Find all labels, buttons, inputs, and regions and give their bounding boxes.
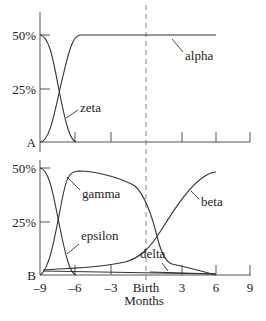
beta-pointer bbox=[191, 191, 199, 199]
gamma-pointer bbox=[67, 177, 80, 190]
x-tick-label: 9 bbox=[247, 280, 254, 295]
panel-a-y-label-25: 25% bbox=[12, 82, 36, 97]
x-axis-title: Months bbox=[124, 293, 164, 308]
zeta-label: zeta bbox=[80, 100, 101, 115]
development-chart: 50% 25% A alpha zeta 50% 25% B ga bbox=[0, 0, 266, 321]
alpha-label: alpha bbox=[185, 48, 213, 63]
alpha-pointer bbox=[172, 39, 183, 52]
panel-a: 50% 25% A alpha zeta bbox=[12, 12, 250, 152]
x-tick-label: –9 bbox=[33, 280, 47, 295]
delta-label: delta bbox=[140, 246, 165, 261]
panel-b: 50% 25% B gamma epsilon beta delta bbox=[12, 160, 251, 283]
x-tick-label: 3 bbox=[179, 280, 186, 295]
zeta-pointer bbox=[66, 110, 78, 118]
panel-a-label: A bbox=[27, 135, 37, 150]
gamma-label: gamma bbox=[82, 186, 120, 201]
epsilon-label: epsilon bbox=[81, 228, 119, 243]
beta-curve bbox=[43, 172, 216, 270]
panel-b-y-label-50: 50% bbox=[12, 161, 36, 176]
epsilon-pointer bbox=[67, 244, 79, 254]
delta-pointer bbox=[162, 263, 168, 271]
x-axis-labels: –9 –6 –3 Birth 3 6 9 Months bbox=[33, 280, 254, 308]
x-tick-label: 6 bbox=[213, 280, 220, 295]
panel-a-y-label-50: 50% bbox=[12, 28, 36, 43]
beta-label: beta bbox=[201, 194, 223, 209]
x-tick-label: –3 bbox=[104, 280, 118, 295]
panel-b-y-label-25: 25% bbox=[12, 215, 36, 230]
gamma-curve bbox=[40, 171, 216, 275]
x-tick-label: –6 bbox=[68, 280, 83, 295]
